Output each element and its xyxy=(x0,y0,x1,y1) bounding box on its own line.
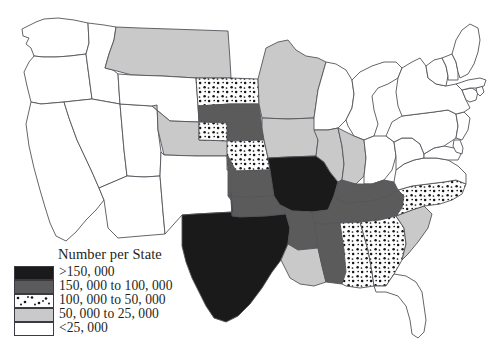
legend-swatch-50k-25k xyxy=(14,308,54,322)
legend-swatch-gt150k xyxy=(14,266,54,280)
legend-label-50k-25k: 50, 000 to 25, 000 xyxy=(59,306,159,321)
legend-label-lt25k: <25, 000 xyxy=(59,320,108,335)
state-montana xyxy=(105,27,231,78)
state-arizona xyxy=(99,176,165,238)
state-washington xyxy=(22,18,89,57)
state-utah xyxy=(120,104,161,177)
state-new-jersey xyxy=(456,112,470,140)
state-north-dakota xyxy=(196,78,259,106)
choropleth-map-figure: Number per State >150, 000 150, 000 to 1… xyxy=(0,0,488,347)
stipple-pattern-icon xyxy=(15,295,53,307)
legend-label-gt150k: >150, 000 xyxy=(59,264,115,279)
legend-swatch-lt25k xyxy=(14,322,54,336)
state-ohio xyxy=(364,136,396,184)
state-oregon xyxy=(24,54,92,104)
legend-label-100k-50k: 100, 000 to 50, 000 xyxy=(59,292,166,307)
legend-label-150k-100k: 150, 000 to 100, 000 xyxy=(59,278,173,293)
legend-title: Number per State xyxy=(58,246,162,262)
map-legend: Number per State >150, 000 150, 000 to 1… xyxy=(14,246,210,342)
legend-swatch-150k-100k xyxy=(14,280,54,294)
legend-swatch-100k-50k xyxy=(14,294,54,308)
state-iowa xyxy=(262,118,318,158)
